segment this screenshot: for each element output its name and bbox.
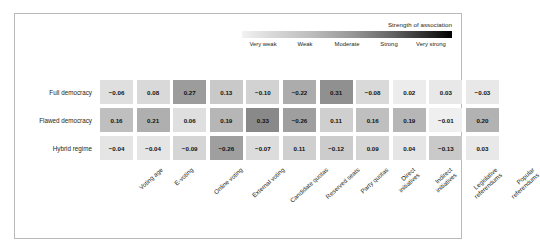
heatmap-cell: −0.01 xyxy=(429,108,462,132)
heatmap-cell: 0.16 xyxy=(100,108,133,132)
heatmap-cell: 0.19 xyxy=(210,108,243,132)
column-label-direct-initiatives: Directinitiatives xyxy=(393,166,422,194)
heatmap-cell: 0.06 xyxy=(173,108,206,132)
heatmap-cell: −0.07 xyxy=(246,136,279,160)
heatmap-cell: −0.26 xyxy=(210,136,243,160)
column-label-e-voting: E-voting xyxy=(172,166,194,187)
legend-tick-very-strong: Very strong xyxy=(410,41,452,47)
column-label-candidate-quotas: Candidate quotas xyxy=(289,166,330,204)
heatmap-row-cells: 0.160.210.060.190.33−0.260.110.160.19−0.… xyxy=(100,108,503,132)
heatmap-cell: 0.20 xyxy=(466,108,499,132)
legend-title: Strength of association xyxy=(242,21,452,28)
row-label-hybrid-regime: Hybrid regime xyxy=(20,145,100,152)
legend-tick-moderate: Moderate xyxy=(326,41,368,47)
legend-tick-labels: Very weak Weak Moderate Strong Very stro… xyxy=(242,41,452,47)
heatmap-cell: 0.33 xyxy=(246,108,279,132)
heatmap-cell: 0.02 xyxy=(393,80,426,104)
row-label-full-democracy: Full democracy xyxy=(20,89,100,96)
heatmap-cell: −0.06 xyxy=(100,80,133,104)
heatmap-cell: −0.09 xyxy=(173,136,206,160)
legend-gradient-bar xyxy=(242,31,452,38)
column-label-popular-referendums: Popularreferendums xyxy=(505,166,540,200)
column-label-online-voting: Online voting xyxy=(212,166,244,196)
heatmap-cell: −0.03 xyxy=(466,80,499,104)
heatmap-cell: 0.04 xyxy=(393,136,426,160)
heatmap-row: Full democracy−0.060.080.270.13−0.10−0.2… xyxy=(20,80,503,104)
legend-tick-strong: Strong xyxy=(368,41,410,47)
heatmap-cell: −0.10 xyxy=(246,80,279,104)
heatmap-cell: 0.11 xyxy=(283,136,316,160)
heatmap-cell: −0.04 xyxy=(137,136,170,160)
heatmap-cell: 0.31 xyxy=(320,80,353,104)
legend: Strength of association Very weak Weak M… xyxy=(242,21,452,47)
column-label-legislative-referendums: Legislativereferendums xyxy=(468,166,503,200)
heatmap-cell: 0.19 xyxy=(393,108,426,132)
row-label-flawed-democracy: Flawed democracy xyxy=(20,117,100,124)
column-label-voting-age: Voting age xyxy=(138,166,165,191)
heatmap-cell: 0.11 xyxy=(320,108,353,132)
heatmap-cell: −0.08 xyxy=(356,80,389,104)
heatmap-cell: 0.08 xyxy=(137,80,170,104)
column-label-external-voting: External voting xyxy=(250,166,285,199)
heatmap-cell: 0.27 xyxy=(173,80,206,104)
heatmap-cell: 0.09 xyxy=(356,136,389,160)
legend-tick-weak: Weak xyxy=(284,41,326,47)
heatmap-figure: Strength of association Very weak Weak M… xyxy=(14,13,462,239)
heatmap-cell: −0.26 xyxy=(283,108,316,132)
heatmap-cell: −0.04 xyxy=(100,136,133,160)
legend-tick-very-weak: Very weak xyxy=(242,41,284,47)
heatmap-row: Flawed democracy0.160.210.060.190.33−0.2… xyxy=(20,108,503,132)
heatmap-row-cells: −0.04−0.04−0.09−0.26−0.070.11−0.120.090.… xyxy=(100,136,503,160)
heatmap-cell: −0.13 xyxy=(429,136,462,160)
heatmap-cell: 0.13 xyxy=(210,80,243,104)
heatmap-cell: −0.12 xyxy=(320,136,353,160)
heatmap-row-cells: −0.060.080.270.13−0.10−0.220.31−0.080.02… xyxy=(100,80,503,104)
heatmap-cell: 0.03 xyxy=(429,80,462,104)
column-label-party-quotas: Party quotas xyxy=(359,166,390,195)
heatmap-cell: 0.21 xyxy=(137,108,170,132)
heatmap-cell: −0.22 xyxy=(283,80,316,104)
heatmap-row: Hybrid regime−0.04−0.04−0.09−0.26−0.070.… xyxy=(20,136,503,160)
column-label-indirect-initiatives: Indirectinitiatives xyxy=(429,166,458,194)
column-axis-labels: Voting ageE-votingOnline votingExternal … xyxy=(100,164,500,234)
heatmap-cell: 0.16 xyxy=(356,108,389,132)
heatmap-cell: 0.03 xyxy=(466,136,499,160)
heatmap-matrix: Full democracy−0.060.080.270.13−0.10−0.2… xyxy=(20,80,503,164)
